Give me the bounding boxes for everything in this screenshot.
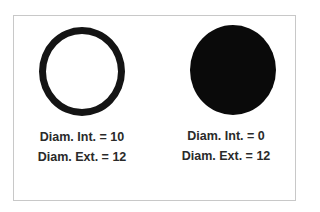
- right-external-diameter-label: Diam. Ext. = 12: [174, 149, 278, 163]
- left-external-diameter-label: Diam. Ext. = 12: [30, 150, 134, 164]
- right-internal-diameter-label: Diam. Int. = 0: [181, 129, 271, 143]
- hollow-ring-shape: [39, 27, 125, 116]
- left-internal-diameter-label: Diam. Int. = 10: [34, 130, 130, 144]
- filled-circle-shape: [190, 25, 276, 115]
